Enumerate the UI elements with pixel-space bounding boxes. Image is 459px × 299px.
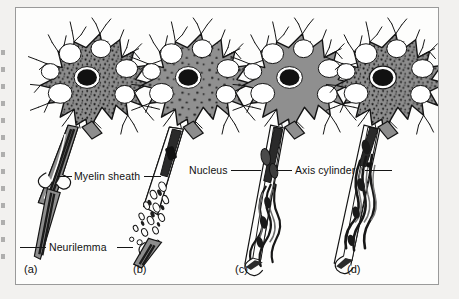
- panel-c-axon-regenerating: [245, 125, 285, 275]
- label-axis-cylinder: Axis cylinder: [295, 165, 355, 176]
- panel-tag-b: (b): [133, 264, 146, 275]
- leader-line-neurilemma-left: [20, 247, 46, 248]
- label-neurilemma: Neurilemma: [49, 242, 107, 253]
- panel-tag-c: (c): [235, 264, 248, 275]
- leader-line-myelin-left: [57, 176, 72, 177]
- leader-line-myelin-right: [144, 176, 161, 177]
- figure-root: Myelin sheath Neurilemma Nucleus Axis cy…: [0, 0, 459, 299]
- figure-plate: Myelin sheath Neurilemma Nucleus Axis cy…: [15, 7, 439, 285]
- panel-tag-a: (a): [24, 264, 37, 275]
- panel-d-axon-restored: [334, 125, 380, 273]
- panel-a-axon: [34, 125, 78, 259]
- panel-a-neuron: [28, 18, 163, 139]
- panel-b-neuron: [130, 18, 265, 139]
- label-myelin-sheath: Myelin sheath: [74, 171, 140, 182]
- label-nucleus: Nucleus: [189, 165, 228, 176]
- scan-edge-artifact: [1, 50, 5, 260]
- leader-line-nucleus-right: [231, 170, 261, 171]
- leader-line-axis-cylinder-right: [365, 170, 392, 171]
- panel-d-neuron: [324, 18, 438, 139]
- leader-line-axis-cylinder-left: [276, 170, 292, 171]
- leader-line-neurilemma-right: [117, 247, 133, 248]
- panel-b-axon-degenerating: [130, 127, 184, 268]
- panel-tag-d: (d): [347, 264, 360, 275]
